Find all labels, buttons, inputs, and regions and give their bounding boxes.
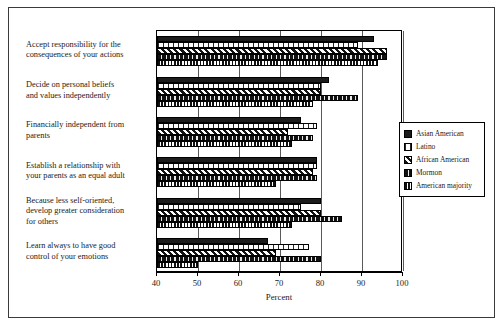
legend-swatch-icon — [404, 130, 412, 138]
x-tick-60 — [238, 272, 239, 276]
category-label-line: parents — [26, 131, 152, 142]
bar-majority-group-6 — [157, 262, 198, 268]
x-tick-label-90: 90 — [357, 278, 366, 288]
x-axis-title: Percent — [156, 292, 402, 302]
plot-area — [156, 30, 402, 272]
category-label-3: Financially independent fromparents — [26, 120, 152, 141]
category-label-line: your parents as an equal adult — [26, 171, 152, 182]
category-label-line: develop greater consideration — [26, 206, 152, 217]
category-label-line: Financially independent from — [26, 120, 152, 131]
category-label-line: and values independently — [26, 91, 152, 102]
legend-swatch-icon — [404, 169, 412, 177]
legend-swatch-icon — [404, 182, 412, 190]
category-label-line: Because less self-oriented, — [26, 196, 152, 207]
legend-swatch-icon — [404, 143, 412, 151]
legend-label: American majority — [416, 182, 472, 189]
legend: Asian AmericanLatinoAfrican AmericanMorm… — [399, 122, 485, 197]
gridline-90 — [362, 31, 363, 271]
x-tick-label-50: 50 — [193, 278, 202, 288]
bar-majority-group-1 — [157, 60, 378, 66]
legend-label: Asian American — [416, 130, 464, 137]
x-tick-label-70: 70 — [275, 278, 284, 288]
category-label-5: Because less self-oriented,develop great… — [26, 196, 152, 228]
x-tick-label-100: 100 — [396, 278, 409, 288]
category-label-line: Accept responsibility for the — [26, 40, 152, 51]
category-label-2: Decide on personal beliefsand values ind… — [26, 80, 152, 101]
bar-majority-group-3 — [157, 141, 292, 147]
gridline-60 — [239, 31, 240, 271]
category-label-6: Learn always to have goodcontrol of your… — [26, 241, 152, 262]
gridline-70 — [280, 31, 281, 271]
category-label-line: consequences of your actions — [26, 50, 152, 61]
category-label-1: Accept responsibility for theconsequence… — [26, 40, 152, 61]
legend-label: Mormon — [416, 169, 442, 176]
x-tick-70 — [279, 272, 280, 276]
x-tick-100 — [402, 272, 403, 276]
x-tick-50 — [197, 272, 198, 276]
category-label-line: control of your emotions — [26, 252, 152, 263]
legend-item-mormon[interactable]: Mormon — [404, 166, 481, 179]
bar-majority-group-4 — [157, 181, 276, 187]
legend-item-african[interactable]: African American — [404, 153, 481, 166]
category-label-line: Establish a relationship with — [26, 161, 152, 172]
legend-item-latino[interactable]: Latino — [404, 140, 481, 153]
bar-majority-group-5 — [157, 222, 292, 228]
x-tick-label-80: 80 — [316, 278, 325, 288]
category-label-line: Learn always to have good — [26, 241, 152, 252]
chart-figure: Accept responsibility for theconsequence… — [0, 0, 504, 327]
category-label-line: for others — [26, 217, 152, 228]
legend-label: African American — [416, 156, 469, 163]
category-label-line: Decide on personal beliefs — [26, 80, 152, 91]
legend-item-majority[interactable]: American majority — [404, 179, 481, 192]
x-tick-90 — [361, 272, 362, 276]
x-tick-label-40: 40 — [152, 278, 161, 288]
x-tick-label-60: 60 — [234, 278, 243, 288]
gridline-80 — [321, 31, 322, 271]
legend-label: Latino — [416, 143, 435, 150]
x-tick-80 — [320, 272, 321, 276]
legend-swatch-icon — [404, 156, 412, 164]
x-tick-40 — [156, 272, 157, 276]
category-label-4: Establish a relationship withyour parent… — [26, 161, 152, 182]
gridline-50 — [198, 31, 199, 271]
bar-majority-group-2 — [157, 101, 313, 107]
legend-item-asian[interactable]: Asian American — [404, 127, 481, 140]
